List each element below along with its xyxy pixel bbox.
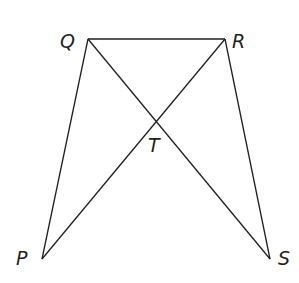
label-S: S [278, 247, 290, 269]
segment-QS [88, 39, 270, 259]
label-Q: Q [60, 30, 75, 52]
segment-RP [42, 39, 225, 259]
label-R: R [232, 30, 245, 52]
label-T: T [148, 134, 161, 156]
geometry-figure: Q R T P S [0, 0, 299, 283]
segment-RS [225, 39, 270, 259]
segment-QP [42, 39, 88, 259]
label-P: P [16, 247, 28, 269]
